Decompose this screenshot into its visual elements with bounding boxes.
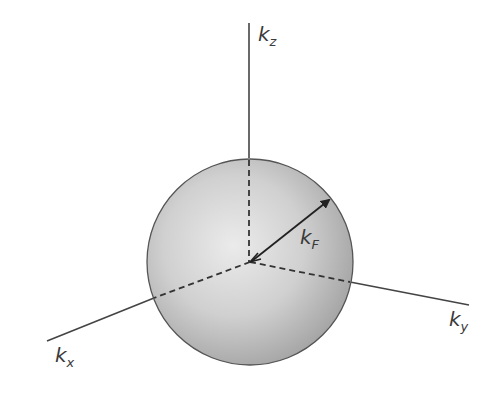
kx-axis-line <box>47 298 154 341</box>
fermi-sphere-diagram: kz kx ky kF <box>0 0 501 396</box>
kx-label: kx <box>55 343 75 370</box>
kz-label: kz <box>258 22 278 49</box>
ky-axis-line <box>350 282 469 305</box>
ky-label: ky <box>449 307 469 334</box>
